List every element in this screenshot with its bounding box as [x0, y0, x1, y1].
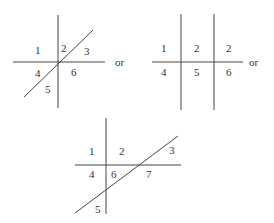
region-label: 1: [89, 145, 95, 157]
region-label: 1: [161, 42, 167, 54]
connector-label: or: [249, 56, 259, 68]
region-label: 2: [226, 42, 232, 54]
region-label: 2: [194, 42, 200, 54]
region-label: 6: [111, 168, 117, 180]
region-label: 5: [45, 83, 51, 95]
line-division-diagrams: 1 2 3 4 5 6 or 1 2 2 4 5 6 or 1 2 3 4 6 …: [0, 0, 274, 223]
region-label: 3: [84, 45, 90, 57]
region-label: 4: [35, 67, 41, 79]
region-label: 2: [61, 42, 67, 54]
region-label: 4: [161, 66, 167, 78]
figure-c: 1 2 3 4 6 7 5: [75, 118, 181, 215]
region-label: 2: [119, 145, 125, 157]
region-label: 3: [169, 144, 175, 156]
connector-label: or: [115, 56, 125, 68]
region-label: 1: [35, 44, 41, 56]
figure-a: 1 2 3 4 5 6 or: [13, 15, 125, 108]
region-label: 5: [194, 66, 200, 78]
region-label: 7: [146, 168, 152, 180]
region-label: 4: [89, 168, 95, 180]
figure-b: 1 2 2 4 5 6 or: [152, 14, 259, 110]
region-label: 6: [71, 66, 77, 78]
region-label: 6: [226, 66, 232, 78]
region-label: 5: [95, 203, 101, 215]
